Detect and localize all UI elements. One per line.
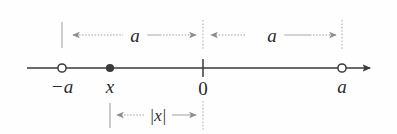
marker-a-open-circle: [338, 64, 346, 72]
point-label-zero: 0: [198, 79, 208, 98]
marker-neg-a-open-circle: [58, 64, 66, 72]
point-label-neg-a: −a: [51, 77, 73, 96]
measure-right-a-label: a: [260, 26, 284, 45]
measure-abs-x-label: |x|: [145, 107, 172, 124]
point-label-x: x: [106, 77, 114, 96]
point-label-a: a: [337, 77, 347, 96]
number-line-figure: a a −a x 0 a |x|: [0, 0, 397, 134]
marker-x-filled-dot: [106, 64, 114, 72]
measure-left-a-label: a: [123, 26, 147, 45]
number-line-axis: [27, 59, 370, 77]
figure-canvas: [0, 0, 397, 134]
